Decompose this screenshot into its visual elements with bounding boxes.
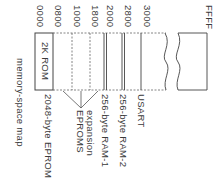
rom-label: 2K ROM <box>40 42 50 80</box>
usart-label: USART <box>136 94 146 128</box>
address-ffff: FFFF <box>204 5 214 29</box>
ram2-label: 256-byte RAM-2 <box>118 94 128 167</box>
address-0000: 0000 <box>35 5 45 27</box>
ram1-label: 256-byte RAM-1 <box>100 94 110 167</box>
ffff-region-box <box>176 33 207 90</box>
address-2800: 2800 <box>123 5 133 27</box>
expansion-pointer-3 <box>81 91 98 108</box>
address-0800: 0800 <box>53 5 63 27</box>
address-3000: 3000 <box>142 5 152 27</box>
expansion-label: expansion <box>85 110 95 156</box>
address-1800: 1800 <box>90 5 100 27</box>
expansion-eproms-label: EPROMS <box>75 110 85 153</box>
diagram-title: memory-space map <box>15 58 25 147</box>
eprom-label: 2048-byte EPROM <box>43 94 53 178</box>
address-2000: 2000 <box>105 5 115 27</box>
break-wave-left <box>164 33 168 90</box>
expansion-pointer-1 <box>63 91 81 108</box>
address-1000: 1000 <box>72 5 82 27</box>
